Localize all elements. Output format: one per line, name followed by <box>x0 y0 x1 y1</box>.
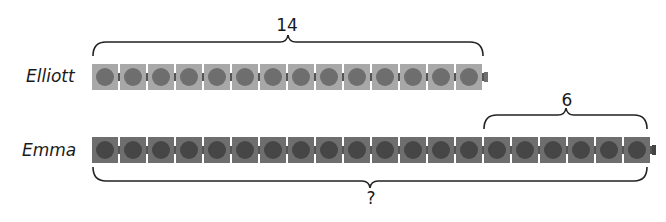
emma-extra-brace <box>484 108 647 129</box>
braces <box>0 0 666 222</box>
elliott-total-brace <box>93 35 483 56</box>
emma-total-brace <box>93 167 647 188</box>
